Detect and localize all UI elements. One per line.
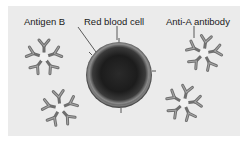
antibody-top-right [184,34,224,72]
antibody-bottom-left [41,89,80,126]
antigen-leader-line [78,27,96,52]
red-blood-cell-label: Red blood cell [84,17,144,27]
antibody-bottom-right [163,83,205,123]
antigen-b-label: Antigen B [24,17,65,27]
red-blood-cell [86,38,156,113]
antibody-top-left [26,40,61,74]
anti-a-antibody-label: Anti-A antibody [166,17,230,27]
